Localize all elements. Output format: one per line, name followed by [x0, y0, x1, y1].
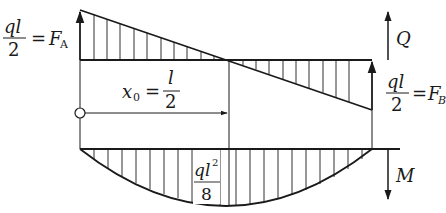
moment-hatching: [94, 149, 362, 205]
beam-diagram: ql 2 = F A x 0 = l 2 ql 2 8 ql 2 = F B Q…: [0, 0, 446, 213]
reaction-a-numerator: ql: [4, 16, 22, 37]
position-numerator: l: [168, 67, 174, 88]
position-symbol: x: [122, 81, 132, 102]
position-equals: =: [145, 81, 160, 102]
label-reaction-b: ql 2 = F B: [386, 71, 446, 115]
position-subscript: 0: [133, 91, 140, 104]
reaction-a-subscript: A: [59, 38, 69, 51]
max-moment-exponent: 2: [212, 157, 218, 168]
label-reaction-a: ql 2 = F A: [3, 16, 69, 60]
position-denominator: 2: [165, 91, 176, 112]
moment-axis-label: M: [395, 165, 415, 186]
reaction-b-subscript: B: [437, 94, 446, 107]
max-moment-numerator: ql: [194, 160, 210, 180]
reaction-b-equals: =: [412, 83, 427, 104]
label-position: x 0 = l 2: [122, 67, 180, 112]
moment-parabola: [80, 149, 372, 206]
origin-circle: [75, 108, 85, 118]
max-moment-denominator: 8: [201, 184, 212, 204]
reaction-a-denominator: 2: [8, 39, 19, 60]
shear-axis-label: Q: [396, 28, 411, 49]
reaction-a-equals: =: [31, 28, 46, 49]
reaction-b-numerator: ql: [387, 71, 405, 92]
bending-moment-diagram: [80, 149, 400, 206]
reaction-b-denominator: 2: [391, 94, 402, 115]
